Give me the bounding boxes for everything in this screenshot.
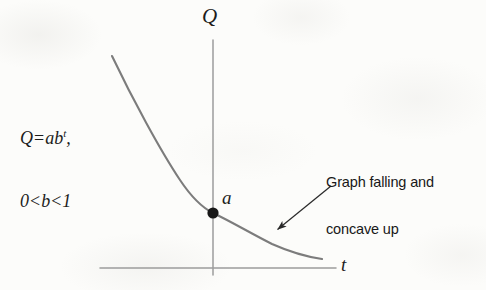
y-axis-label: Q (202, 6, 217, 27)
formula-b: b (41, 191, 50, 211)
formula-annotation: Q=abt, 0<b<1 (20, 86, 71, 254)
formula-line-1: Q=abt, (20, 128, 71, 149)
formula-q: Q (20, 128, 33, 148)
annotation-line-1: Graph falling and (326, 175, 434, 191)
marked-point-label: a (222, 188, 232, 207)
formula-one: 1 (62, 191, 71, 211)
curve-annotation-text: Graph falling and concave up (326, 144, 434, 268)
formula-comma: , (66, 128, 71, 148)
exponential-decay-curve (112, 56, 322, 259)
formula-base: ab (45, 128, 63, 148)
annotation-arrow (278, 186, 332, 230)
formula-zero: 0 (20, 191, 29, 211)
formula-lt-2: < (50, 191, 62, 211)
marked-point-dot (207, 207, 218, 218)
formula-lt-1: < (29, 191, 41, 211)
formula-equals: = (33, 128, 45, 148)
formula-line-2: 0<b<1 (20, 191, 71, 212)
exponential-decay-figure: Q t a Q=abt, 0<b<1 Graph falling and con… (0, 0, 486, 290)
annotation-line-2: concave up (326, 222, 434, 238)
